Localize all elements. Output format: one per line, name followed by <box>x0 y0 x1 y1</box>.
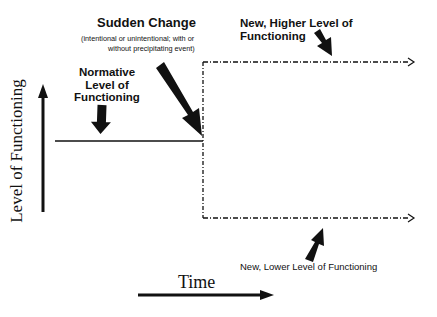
higher-level-label: New, Higher Level of Functioning <box>240 17 353 42</box>
sudden-change-pointer-arrow <box>156 62 202 136</box>
normative-label-line2: Level of <box>67 79 147 92</box>
lower-level-label: New, Lower Level of Functioning <box>240 261 377 272</box>
normative-label-line3: Functioning <box>67 91 147 104</box>
higher-level-dashed-line <box>203 58 414 66</box>
sudden-change-subtitle-line1: (intentional or unintentional; with or <box>81 34 194 43</box>
diagram-canvas: Level of Functioning Time Sudden Change … <box>0 0 437 317</box>
sudden-change-title: Sudden Change <box>97 15 196 30</box>
lower-level-pointer-arrow <box>305 228 324 262</box>
higher-level-label-line1: New, Higher Level of <box>240 17 353 30</box>
x-axis-label: Time <box>178 272 215 293</box>
lower-level-dashed-line <box>203 214 414 222</box>
y-axis-arrow <box>38 84 48 212</box>
normative-label: Normative Level of Functioning <box>67 66 147 104</box>
higher-level-label-line2: Functioning <box>240 30 353 43</box>
normative-pointer-arrow <box>91 105 112 135</box>
y-axis-label: Level of Functioning <box>7 71 29 231</box>
normative-label-line1: Normative <box>67 66 147 79</box>
sudden-change-subtitle-line2: without precipitating event) <box>108 44 195 53</box>
